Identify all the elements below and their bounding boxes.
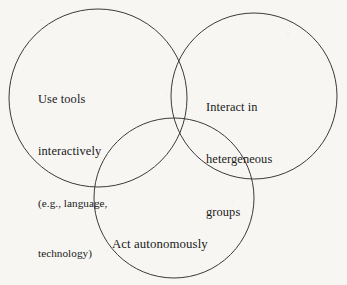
label-use-tools-line3: (e.g., language,: [38, 197, 107, 210]
label-interact-line1: Interact in: [206, 100, 272, 115]
label-interact-line2: hetergeneous: [206, 152, 272, 167]
label-use-tools-line1: Use tools: [38, 92, 107, 107]
venn-diagram: Use tools interactively (e.g., language,…: [0, 0, 347, 285]
label-use-tools-line4: technology): [38, 247, 107, 260]
label-use-tools-line2: interactively: [38, 144, 107, 159]
label-act-line1: Act autonomously: [112, 237, 208, 252]
label-use-tools: Use tools interactively (e.g., language,…: [38, 54, 107, 285]
label-interact-heterogeneous: Interact in hetergeneous groups: [206, 62, 272, 257]
label-interact-line3: groups: [206, 205, 272, 220]
label-act-autonomously: Act autonomously: [112, 199, 208, 285]
